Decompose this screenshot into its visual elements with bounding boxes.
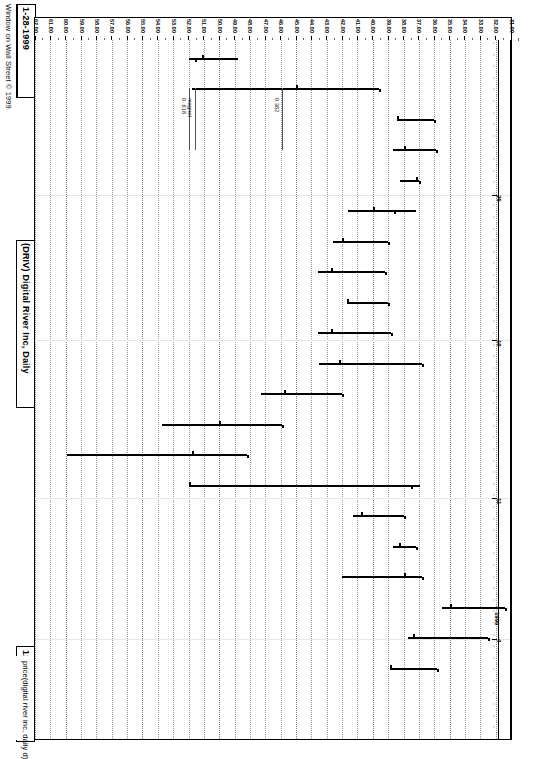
axis-speck	[493, 692, 495, 694]
price-gridline	[480, 40, 481, 739]
axis-speck	[496, 535, 498, 537]
ohlc-bar	[318, 271, 386, 273]
price-tick-label: 46.00	[278, 19, 284, 33]
ohlc-open-tick	[373, 207, 375, 210]
axis-speck	[496, 222, 498, 224]
price-gridline	[327, 40, 328, 739]
axis-speck	[493, 135, 495, 137]
price-tick-label: 49.00	[232, 19, 238, 33]
axis-speck	[493, 506, 495, 508]
axis-speck	[496, 338, 498, 340]
ohlc-bar	[192, 88, 379, 90]
price-tick-label: 38.00	[401, 19, 407, 33]
axis-speck	[493, 518, 495, 520]
price-gridline	[158, 40, 159, 739]
ohlc-open-tick	[339, 360, 341, 363]
ohlc-bar	[347, 302, 388, 304]
ohlc-close-tick	[385, 272, 387, 275]
ohlc-open-tick	[399, 543, 401, 546]
ohlc-open-tick	[342, 238, 344, 241]
axis-speck	[493, 425, 495, 427]
ohlc-close-tick	[342, 394, 344, 397]
price-gridline	[373, 40, 374, 739]
axis-speck	[493, 541, 495, 543]
ohlc-plot-area: 0. 618magnet0.382	[34, 40, 512, 740]
ohlc-open-tick	[413, 634, 415, 637]
end-date-label: 1-28-1999	[21, 7, 30, 50]
axis-speck	[493, 54, 495, 56]
price-tick-label: 58.00	[94, 19, 100, 33]
ohlc-close-tick	[419, 181, 421, 184]
price-tick-label: 41.00	[355, 19, 361, 33]
axis-speck	[496, 477, 498, 479]
axis-speck	[496, 361, 498, 363]
price-tick-label: 56.00	[125, 19, 131, 33]
price-tick-label: 31.00	[509, 19, 515, 33]
ohlc-bar	[318, 332, 392, 334]
axis-speck	[496, 106, 498, 108]
axis-speck	[493, 42, 495, 44]
axis-speck	[493, 77, 495, 79]
ohlc-open-tick	[347, 299, 349, 302]
price-tick-label: 36.00	[432, 19, 438, 33]
axis-speck	[493, 715, 495, 717]
ohlc-close-tick	[379, 89, 381, 92]
price-tick-label: 42.00	[340, 19, 346, 33]
ohlc-close-tick	[416, 547, 418, 550]
ohlc-open-tick	[192, 451, 194, 454]
axis-speck	[496, 419, 498, 421]
ohlc-close-tick	[404, 516, 406, 519]
price-tick-label: 62.00	[33, 19, 39, 33]
price-gridline	[450, 40, 451, 739]
price-tick-label: 47.00	[263, 19, 269, 33]
axis-speck	[493, 564, 495, 566]
axis-speck	[496, 686, 498, 688]
copyright-label: Window on Wall Street © 1999	[5, 4, 13, 109]
ohlc-open-tick	[331, 329, 333, 332]
ohlc-bar	[162, 424, 282, 426]
ohlc-close-tick	[388, 303, 390, 306]
axis-speck	[496, 454, 498, 456]
date-gridline	[35, 639, 511, 640]
axis-speck	[493, 680, 495, 682]
price-tick-label: 50.00	[217, 19, 223, 33]
ohlc-open-tick	[202, 55, 204, 58]
axis-speck	[493, 367, 495, 369]
axis-speck	[493, 460, 495, 462]
price-gridline	[127, 40, 128, 739]
axis-speck	[496, 373, 498, 375]
price-tick-label: 61.00	[48, 19, 54, 33]
price-tick-label: 44.00	[309, 19, 315, 33]
ohlc-close-tick	[282, 425, 284, 428]
date-gridline	[35, 195, 511, 196]
axis-speck	[496, 489, 498, 491]
axis-speck	[493, 228, 495, 230]
price-gridline	[204, 40, 205, 739]
ohlc-open-tick	[404, 146, 406, 149]
price-gridline	[342, 40, 343, 739]
axis-speck	[496, 48, 498, 50]
ohlc-bar	[393, 149, 436, 151]
axis-speck	[496, 141, 498, 143]
axis-speck	[496, 164, 498, 166]
price-tick-label: 43.00	[324, 19, 330, 33]
ohlc-bar	[408, 637, 488, 639]
axis-speck	[493, 599, 495, 601]
ohlc-close-tick	[411, 486, 413, 489]
axis-speck	[496, 315, 498, 317]
axis-speck	[496, 396, 498, 398]
ohlc-close-tick	[195, 59, 197, 62]
price-gridline	[250, 40, 251, 739]
axis-speck	[493, 402, 495, 404]
axis-speck	[493, 483, 495, 485]
axis-speck	[493, 251, 495, 253]
axis-speck	[496, 187, 498, 189]
price-gridline	[404, 40, 405, 739]
ohlc-open-tick	[284, 390, 286, 393]
axis-speck	[496, 651, 498, 653]
price-tick-minor	[518, 38, 519, 41]
price-tick-label: 35.00	[447, 19, 453, 33]
axis-speck	[493, 170, 495, 172]
axis-speck	[493, 576, 495, 578]
